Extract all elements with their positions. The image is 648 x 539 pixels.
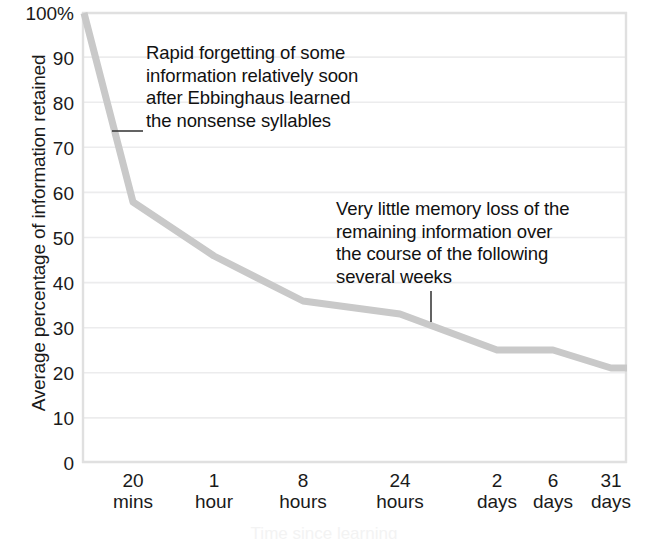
x-axis-caption: Time since learning: [0, 524, 648, 539]
x-axis-tick-labels: 20 mins 1 hour 8 hours 24 hours 2 days 6…: [0, 0, 648, 539]
x-tick-31-days-unit: days: [551, 491, 648, 512]
x-tick-31-days: 31 days: [551, 470, 648, 512]
x-tick-31-days-value: 31: [551, 470, 648, 491]
ebbinghaus-forgetting-curve-chart: Average percentage of information retain…: [0, 0, 648, 539]
